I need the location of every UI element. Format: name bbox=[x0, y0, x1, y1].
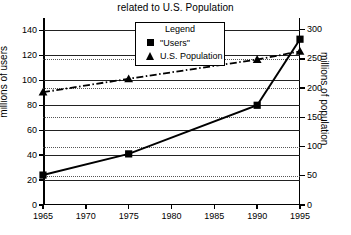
x-axis-tick-label: 1980 bbox=[161, 212, 181, 221]
chart-container: related to U.S. Population 0204060801001… bbox=[0, 0, 351, 235]
y-axis-left-title: millions of users bbox=[0, 46, 12, 57]
y-axis-right-title-text: millions of population bbox=[319, 52, 330, 145]
y-axis-left-tick-label: 0 bbox=[32, 201, 37, 210]
legend-item-population: U.S. Population bbox=[136, 49, 224, 62]
y-axis-left-tick-label: 40 bbox=[27, 151, 37, 160]
legend: Legend "Users" U.S. Population bbox=[135, 22, 225, 66]
y-axis-left-tick-label: 140 bbox=[22, 26, 37, 35]
y-axis-right-tick-label: 300 bbox=[307, 25, 322, 34]
y-axis-right-tick-label: 50 bbox=[307, 171, 317, 180]
data-point-square bbox=[39, 171, 46, 178]
y-axis-left-tick-label: 120 bbox=[22, 51, 37, 60]
triangle-marker-icon bbox=[143, 52, 157, 60]
chart-title: related to U.S. Population bbox=[0, 2, 351, 13]
legend-item-users: "Users" bbox=[136, 36, 224, 49]
y-axis-left-tick-label: 80 bbox=[27, 101, 37, 110]
legend-label-population: U.S. Population bbox=[157, 51, 223, 61]
y-axis-left-tick-label: 60 bbox=[27, 126, 37, 135]
y-axis-right-title: millions of population bbox=[330, 52, 351, 63]
x-axis-tick-label: 1970 bbox=[76, 212, 96, 221]
y-axis-left-title-text: millions of users bbox=[0, 46, 9, 118]
y-axis-left-tick-label: 100 bbox=[22, 76, 37, 85]
x-axis-tick-label: 1975 bbox=[119, 212, 139, 221]
data-point-square bbox=[254, 102, 261, 109]
data-point-triangle bbox=[296, 47, 305, 55]
legend-title: Legend bbox=[136, 24, 224, 35]
x-axis-tick-label: 1990 bbox=[247, 212, 267, 221]
x-axis-tick-label: 1965 bbox=[33, 212, 53, 221]
y-axis-left-tick-label: 20 bbox=[27, 176, 37, 185]
square-marker-icon bbox=[143, 39, 157, 46]
y-axis-right-tick-label: 0 bbox=[307, 201, 312, 210]
data-point-square bbox=[296, 36, 303, 43]
legend-label-users: "Users" bbox=[157, 38, 190, 48]
data-point-triangle bbox=[124, 74, 133, 82]
x-axis-tick-label: 1995 bbox=[290, 212, 310, 221]
x-axis-tick-label: 1985 bbox=[204, 212, 224, 221]
data-point-square bbox=[125, 150, 132, 157]
